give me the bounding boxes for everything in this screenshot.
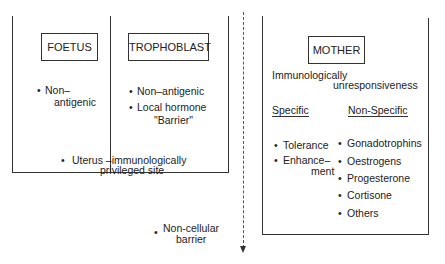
uterus-line-2: privileged site: [100, 164, 164, 176]
trophoblast-bullet-1: •: [129, 85, 133, 97]
mother-heading-2: unresponsiveness: [333, 79, 418, 91]
nonspecific-bullet-2: •: [338, 155, 342, 167]
trophoblast-item-3: "Barrier": [154, 114, 193, 126]
mother-frame-bottom: [262, 234, 429, 235]
foetus-item-2: antigenic: [54, 96, 96, 108]
mother-frame-left: [262, 16, 263, 235]
left-frame-divider: [110, 16, 111, 173]
foetus-bullet: •: [37, 84, 41, 96]
non-cellular-line-2: barrier: [176, 233, 206, 245]
specific-bullet-2: •: [274, 154, 278, 166]
mother-frame-right: [428, 18, 429, 235]
trophoblast-item-2: Local hormone: [137, 101, 206, 113]
non-cellular-bullet: •: [154, 226, 158, 238]
uterus-bullet: •: [61, 154, 65, 166]
left-frame-right: [228, 16, 229, 173]
nonspecific-bullet-3: •: [338, 172, 342, 184]
left-frame-left: [12, 16, 13, 173]
trophoblast-item-1: Non–antigenic: [137, 85, 204, 97]
foetus-item-1: Non–: [45, 84, 70, 96]
nonspecific-item-5: Others: [347, 207, 379, 219]
trophoblast-box: TROPHOBLAST: [128, 33, 209, 61]
non-specific-label: Non-Specific: [348, 104, 408, 117]
specific-bullet-1: •: [274, 139, 278, 151]
dashed-divider: [243, 12, 244, 248]
mother-box: MOTHER: [308, 36, 365, 64]
nonspecific-bullet-1: •: [338, 137, 342, 149]
arrow-down-icon: [240, 246, 246, 253]
specific-label: Specific: [272, 104, 309, 117]
trophoblast-bullet-2: •: [129, 101, 133, 113]
nonspecific-item-1: Gonadotrophins: [347, 137, 422, 149]
specific-item-1: Tolerance: [283, 139, 329, 151]
nonspecific-item-3: Progesterone: [347, 172, 410, 184]
specific-item-3: ment: [311, 165, 334, 177]
nonspecific-item-4: Cortisone: [347, 189, 392, 201]
foetus-box: FOETUS: [41, 33, 98, 61]
nonspecific-bullet-4: •: [338, 189, 342, 201]
nonspecific-bullet-5: •: [338, 207, 342, 219]
nonspecific-item-2: Oestrogens: [347, 155, 401, 167]
